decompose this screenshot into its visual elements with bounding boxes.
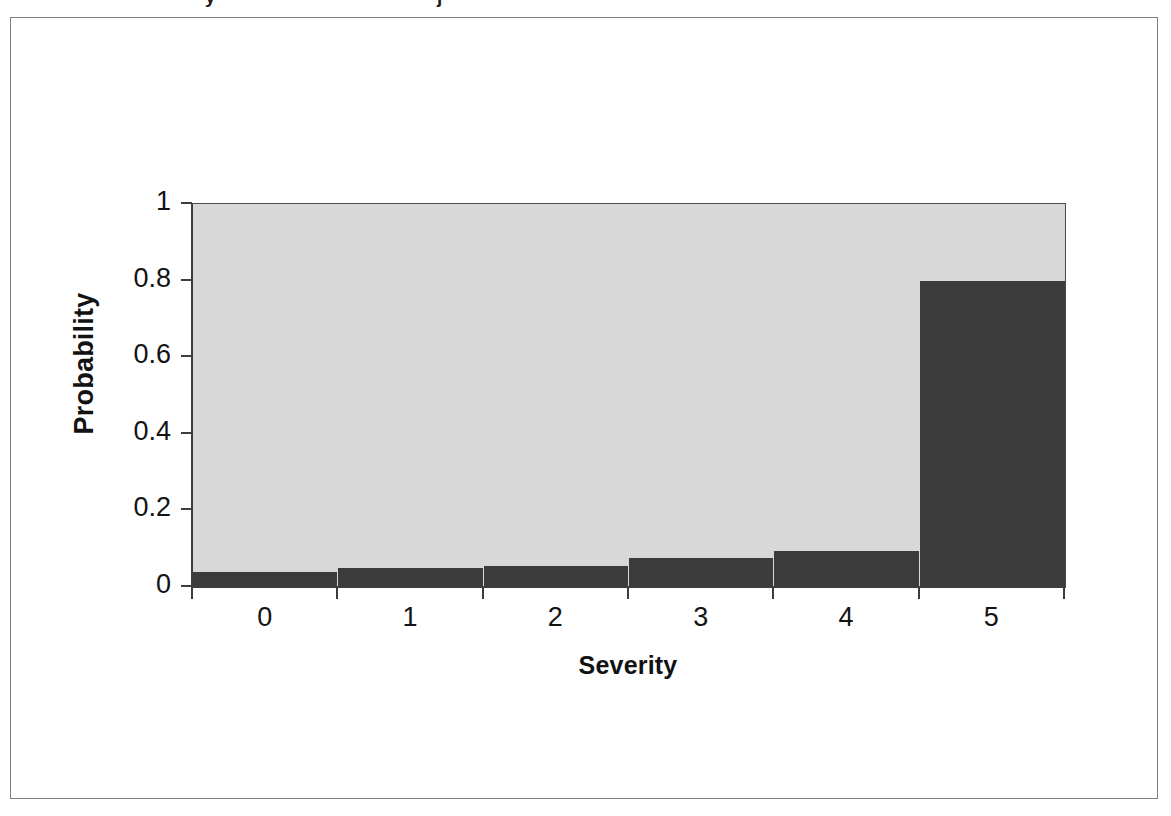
y-tick-label-1: 1 — [41, 188, 171, 215]
x-tick-label-2: 2 — [515, 604, 595, 631]
y-tick-label-0.8: 0.8 — [41, 265, 171, 292]
x-tick-boundary-0 — [191, 588, 193, 599]
bar-0 — [193, 572, 338, 587]
caption-glyph-descender-1: y — [205, 0, 216, 6]
x-axis-title: Severity — [192, 651, 1064, 680]
figure-frame: 00.20.40.60.81 Probability 012345 Severi… — [10, 17, 1158, 799]
x-tick-boundary-1 — [336, 588, 338, 599]
bar-1 — [338, 568, 483, 587]
y-tick-0.6 — [181, 355, 192, 357]
y-tick-label-0: 0 — [41, 571, 171, 598]
cut-off-caption-remnant: y j — [0, 0, 1171, 12]
y-axis-title: Probability — [69, 214, 100, 514]
y-tick-1 — [181, 202, 192, 204]
y-tick-0.4 — [181, 432, 192, 434]
x-tick-boundary-3 — [627, 588, 629, 599]
x-tick-label-3: 3 — [661, 604, 741, 631]
bar-3 — [629, 558, 774, 587]
caption-glyph-descender-2: j — [437, 0, 442, 6]
bar-5 — [920, 281, 1065, 587]
bar-chart: 00.20.40.60.81 Probability 012345 Severi… — [11, 18, 1159, 800]
x-tick-label-0: 0 — [225, 604, 305, 631]
x-tick-boundary-4 — [772, 588, 774, 599]
y-tick-label-0.2: 0.2 — [41, 494, 171, 521]
x-tick-boundary-6 — [1063, 588, 1065, 599]
y-tick-label-0.4: 0.4 — [41, 418, 171, 445]
x-tick-boundary-2 — [482, 588, 484, 599]
plot-area — [192, 203, 1066, 588]
bar-4 — [774, 551, 919, 587]
y-axis-line — [191, 203, 193, 588]
x-tick-label-5: 5 — [951, 604, 1031, 631]
bar-2 — [484, 566, 629, 587]
x-tick-boundary-5 — [918, 588, 920, 599]
y-tick-0.2 — [181, 508, 192, 510]
x-tick-label-1: 1 — [370, 604, 450, 631]
bar-series — [193, 204, 1065, 587]
y-tick-label-0.6: 0.6 — [41, 341, 171, 368]
x-tick-label-4: 4 — [806, 604, 886, 631]
y-tick-0.8 — [181, 279, 192, 281]
